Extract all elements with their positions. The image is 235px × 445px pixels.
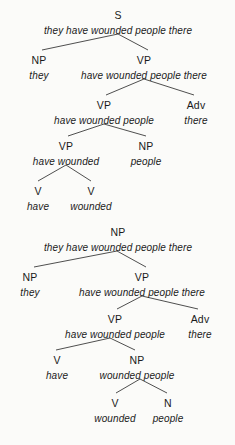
tree1-node-np2-category: NP [139, 141, 154, 152]
tree2-node-np2-phrase: wounded people [100, 371, 175, 381]
tree1-node-s-phrase: they have wounded people there [44, 26, 192, 36]
tree2-node-v-have-phrase: have [46, 371, 68, 381]
tree1-node-vp3-phrase: have wounded [33, 157, 99, 167]
tree2-node-np-phrase: they [20, 288, 39, 298]
branch-s-to-np [42, 34, 118, 50]
tree1-node-np-category: NP [32, 55, 47, 66]
branch2-np-to-v [116, 379, 140, 393]
branch2-np-to-np [34, 251, 117, 267]
tree2-node-np-category: NP [23, 272, 38, 283]
tree2-node-n-people-phrase: people [153, 414, 184, 424]
tree1-node-vp3-category: VP [59, 141, 73, 152]
branch-vp-to-adv [144, 79, 194, 95]
tree2-node-adv-phrase: there [188, 330, 211, 340]
tree1-node-np-phrase: they [29, 71, 48, 81]
tree1-node-vp-category: VP [137, 55, 151, 66]
tree2-node-n-people-category: N [164, 398, 172, 409]
tree1-node-v-have-category: V [34, 186, 41, 197]
tree2-node-vp-category: VP [135, 272, 149, 283]
tree2-node-vp-phrase: have wounded people there [79, 288, 205, 298]
tree2-node-np-root-phrase: they have wounded people there [44, 243, 192, 253]
tree2-node-v-have-category: V [53, 355, 60, 366]
tree2-node-v-wounded-category: V [111, 398, 118, 409]
tree1-node-adv-phrase: there [184, 116, 207, 126]
tree2-node-v-wounded-phrase: wounded [94, 414, 135, 424]
tree1-node-vp2-category: VP [97, 100, 111, 111]
branch-vp-to-vp [106, 79, 144, 95]
branch-vp-to-v-have [38, 165, 66, 181]
tree1-node-v-wounded-category: V [87, 186, 94, 197]
tree1-node-vp2-phrase: have wounded people [54, 116, 154, 126]
tree2-node-adv-category: Adv [191, 314, 210, 325]
tree1-node-s-category: S [114, 10, 121, 21]
tree1-node-adv-category: Adv [187, 100, 206, 111]
branch2-np-to-n [140, 379, 167, 393]
branch-vp-to-v-wounded [66, 165, 91, 181]
branch-s-to-vp [118, 34, 148, 50]
tree1-node-v-wounded-phrase: wounded [70, 202, 111, 212]
branch2-np-to-vp [117, 251, 146, 267]
tree2-node-vp2-phrase: have wounded people [65, 330, 165, 340]
tree1-node-v-have-phrase: have [27, 202, 49, 212]
tree2-node-np2-category: NP [130, 355, 145, 366]
tree1-node-vp-phrase: have wounded people there [81, 71, 207, 81]
tree1-node-np2-phrase: people [131, 157, 162, 167]
tree2-node-vp2-category: VP [108, 314, 122, 325]
syntax-tree-figure: S they have wounded people there NP they… [0, 0, 235, 445]
tree2-node-np-root-category: NP [111, 227, 126, 238]
